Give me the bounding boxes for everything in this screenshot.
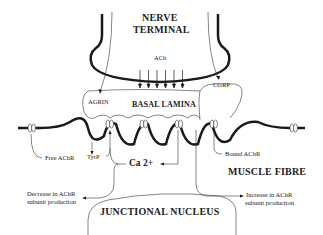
postsynaptic-membrane xyxy=(18,118,305,144)
agrin-label: AGRIN xyxy=(88,99,109,106)
decrease-label: Decrease in AChR xyxy=(27,191,75,198)
bound-achr-label: Bound AChR xyxy=(225,151,260,158)
increase-label-line2: subunit production xyxy=(245,200,294,207)
ach-label: ACh xyxy=(154,55,166,62)
cgrp-pathway xyxy=(208,12,218,78)
tyrp-label: TyrP xyxy=(87,154,100,161)
calcium-to-decrease xyxy=(86,164,118,198)
calcium-left-line xyxy=(110,148,126,164)
increase-label: Increase in AChR xyxy=(246,192,292,199)
nerve-terminal-label-line2: TERMINAL xyxy=(133,25,190,35)
junctional-nucleus-label: JUNCTIONAL NUCLEUS xyxy=(100,207,219,217)
calcium-label: Ca 2+ xyxy=(129,159,153,169)
decrease-label-line2: subunit production xyxy=(27,199,76,206)
ach-release-arrows xyxy=(139,70,185,88)
free-achr-pointer xyxy=(31,134,42,158)
cgrp-label: CGRP xyxy=(213,82,230,89)
tyrp-connector xyxy=(106,132,110,156)
muscle-fibre-label: MUSCLE FIBRE xyxy=(228,167,306,177)
calcium-right-line xyxy=(162,130,178,164)
basal-lamina-label: BASAL LAMINA xyxy=(132,101,196,109)
free-achr-label: Free AChR xyxy=(45,155,74,162)
nerve-terminal-label: NERVE xyxy=(142,13,178,23)
